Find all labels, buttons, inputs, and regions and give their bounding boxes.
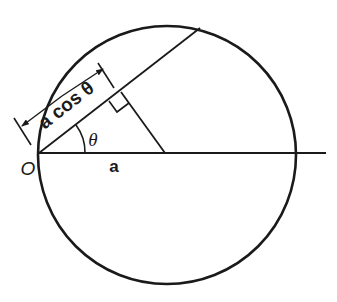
extension-tick-upper bbox=[98, 63, 114, 88]
perpendicular-line bbox=[121, 92, 165, 153]
circle bbox=[38, 26, 296, 284]
chord-length-label: a cos θ bbox=[34, 77, 98, 133]
chord-line bbox=[39, 28, 200, 153]
extension-tick-lower bbox=[14, 118, 31, 145]
radius-label: a bbox=[109, 157, 119, 176]
angle-label: θ bbox=[88, 129, 97, 150]
right-angle-marker bbox=[109, 101, 129, 112]
origin-label: O bbox=[21, 158, 36, 179]
angle-arc bbox=[76, 125, 85, 153]
circle-chord-diagram: a cos θ θ O a bbox=[0, 0, 337, 302]
